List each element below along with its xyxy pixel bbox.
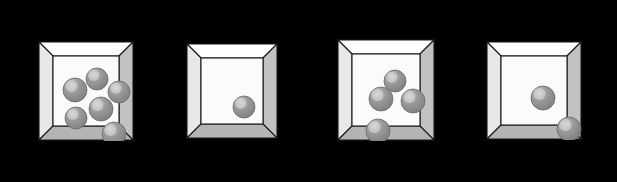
marble-highlight (533, 88, 545, 100)
marble-highlight (88, 70, 99, 81)
marble[interactable] (557, 117, 581, 140)
frame-right-face (263, 44, 277, 138)
scene-canvas (0, 0, 617, 182)
box-3[interactable] (337, 39, 435, 141)
marble[interactable] (86, 68, 108, 90)
marble[interactable] (63, 78, 87, 102)
marble[interactable] (369, 87, 393, 111)
marble-highlight (104, 124, 116, 136)
marble[interactable] (108, 81, 130, 103)
marble-highlight (386, 72, 397, 83)
marble[interactable] (531, 86, 555, 110)
marble-highlight (91, 99, 103, 111)
box-4[interactable] (486, 41, 582, 140)
marble[interactable] (401, 89, 425, 113)
marble-highlight (67, 109, 78, 120)
marble-highlight (368, 121, 380, 133)
marble-highlight (371, 89, 383, 101)
frame-left-face (338, 40, 352, 140)
frame-left-face (39, 42, 53, 140)
box-1[interactable] (38, 41, 134, 141)
frame-left-face (187, 44, 201, 138)
frame-bottom-face (187, 124, 277, 138)
frame-top-face (487, 42, 581, 56)
marble-highlight (65, 80, 77, 92)
marble[interactable] (233, 96, 255, 118)
frame-top-face (338, 40, 434, 54)
box-interior (201, 58, 263, 124)
marble-highlight (110, 83, 121, 94)
marble[interactable] (65, 107, 87, 129)
marble[interactable] (366, 119, 390, 141)
marble[interactable] (89, 97, 113, 121)
frame-right-face (420, 40, 434, 140)
frame-left-face (487, 42, 501, 139)
frame-top-face (39, 42, 133, 56)
frame-top-face (187, 44, 277, 58)
marble-highlight (235, 98, 246, 109)
marble-highlight (403, 91, 415, 103)
marble-highlight (559, 119, 571, 131)
box-2[interactable] (186, 43, 278, 139)
